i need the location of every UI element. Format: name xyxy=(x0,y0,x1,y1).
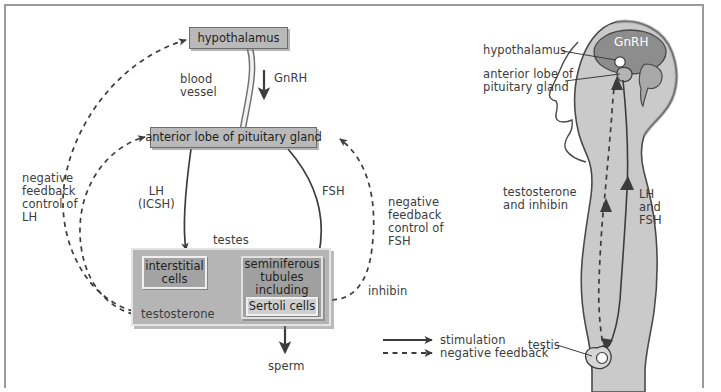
testosterone-label: testosterone xyxy=(141,308,215,321)
testis-node xyxy=(597,353,608,364)
body-anterior-lobe-label: anterior lobe of pituitary gland xyxy=(483,68,573,94)
diagram-vector-layer xyxy=(0,0,721,392)
fsh-label: FSH xyxy=(322,185,345,198)
sertoli-cells-box[interactable]: Sertoli cells xyxy=(246,297,318,316)
sperm-label: sperm xyxy=(268,360,305,373)
body-testis-label: testis xyxy=(528,339,560,352)
body-lh-fsh-label: LH and FSH xyxy=(639,188,662,227)
lh-arrow xyxy=(184,149,191,250)
negative-feedback-lh-label: negative feedback control of LH xyxy=(22,172,78,224)
hypothalamus-node xyxy=(615,57,625,67)
lh-icsh-label: LH (ICSH) xyxy=(138,185,175,211)
anterior-pituitary-box[interactable]: anterior lobe of pituitary gland xyxy=(150,127,317,148)
inhibin-label: inhibin xyxy=(368,285,407,298)
blood-vessel-label: blood vessel xyxy=(180,73,217,99)
sertoli-cells-label: Sertoli cells xyxy=(249,300,315,313)
interstitial-cells-label: interstitial cells xyxy=(145,260,203,286)
body-hypothalamus-label: hypothalamus xyxy=(483,44,566,57)
hypothalamus-box[interactable]: hypothalamus xyxy=(189,27,288,49)
testes-label: testes xyxy=(213,234,249,247)
negative-feedback-fsh-path xyxy=(332,139,374,300)
anterior-pituitary-box-label: anterior lobe of pituitary gland xyxy=(145,131,322,144)
diagram-root: hypothalamus anterior lobe of pituitary … xyxy=(0,0,721,392)
blood-vessel-shape xyxy=(243,49,252,128)
hypothalamus-box-label: hypothalamus xyxy=(198,32,280,45)
body-testosterone-inhibin-label: testosterone and inhibin xyxy=(503,186,577,212)
negative-feedback-fsh-label: negative feedback control of FSH xyxy=(388,196,444,248)
body-gnrh-label: GnRH xyxy=(614,36,649,49)
gnrh-label: GnRH xyxy=(274,72,307,85)
seminiferous-tubules-label: seminiferous tubules including xyxy=(243,258,321,297)
interstitial-cells-box[interactable]: interstitial cells xyxy=(142,256,207,289)
